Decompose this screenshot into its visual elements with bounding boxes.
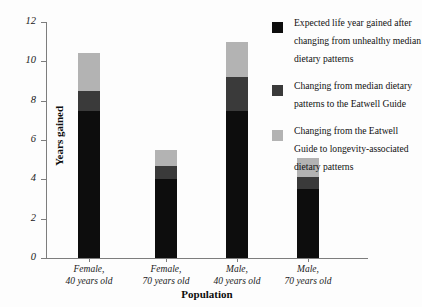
x-tick-3 xyxy=(308,258,309,262)
bar-segment[interactable] xyxy=(226,77,248,110)
x-category-label-line: 70 years old xyxy=(263,276,353,288)
legend-item[interactable]: Changing from the Eatwell Guide to longe… xyxy=(272,120,422,174)
legend-item[interactable]: Changing from median dietary patterns to… xyxy=(272,75,422,111)
y-tick-label-6: 6 xyxy=(10,134,36,144)
bar-segment[interactable] xyxy=(78,53,100,90)
bar-segment[interactable] xyxy=(78,91,100,111)
x-axis-title: Population xyxy=(46,288,368,300)
x-category-label-line: Male, xyxy=(263,264,353,276)
bar-stack[interactable] xyxy=(155,150,177,258)
legend-item-label: Changing from the Eatwell Guide to longe… xyxy=(294,125,409,172)
y-tick-label-10: 10 xyxy=(10,55,36,65)
legend-item-label: Changing from median dietary patterns to… xyxy=(294,80,412,109)
bar-segment[interactable] xyxy=(155,179,177,258)
bar-segment[interactable] xyxy=(155,166,177,180)
stacked-bar-chart: 024681012 Female,40 years oldFemale,70 y… xyxy=(0,0,422,307)
bar-segment[interactable] xyxy=(297,189,319,258)
y-tick-label-12: 12 xyxy=(10,16,36,26)
legend-item[interactable]: Expected life year gained after changing… xyxy=(272,12,422,66)
y-tick-label-4: 4 xyxy=(10,173,36,183)
bar-segment[interactable] xyxy=(226,111,248,259)
x-axis-line xyxy=(46,258,368,259)
bar-segment[interactable] xyxy=(78,111,100,259)
legend-item-label: Expected life year gained after changing… xyxy=(294,17,421,64)
x-category-label: Male,70 years old xyxy=(263,264,353,287)
bar-stack[interactable] xyxy=(78,53,100,258)
bar-segment[interactable] xyxy=(226,42,248,77)
legend-swatch-black xyxy=(272,22,283,33)
y-tick-0 xyxy=(41,258,46,259)
bar-stack[interactable] xyxy=(226,42,248,258)
y-tick-label-2: 2 xyxy=(10,213,36,223)
legend-swatch-dark-gray xyxy=(272,85,283,96)
x-tick-0 xyxy=(89,258,90,262)
bar-segment[interactable] xyxy=(155,150,177,166)
x-tick-2 xyxy=(237,258,238,262)
chart-legend: Expected life year gained after changing… xyxy=(272,12,422,183)
y-tick-label-8: 8 xyxy=(10,95,36,105)
x-tick-1 xyxy=(166,258,167,262)
legend-swatch-light-gray xyxy=(272,130,283,141)
y-tick-label-0: 0 xyxy=(10,252,36,262)
